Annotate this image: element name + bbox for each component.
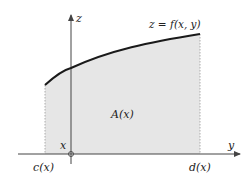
z-axis-label: z [75,12,82,25]
left-bound-label: c(x) [33,161,54,174]
curve-label: z = f(x, y) [148,18,201,30]
cross-section-diagram: z y z = f(x, y) A(x) x c(x) d(x) [0,0,250,183]
shaded-region [45,34,200,154]
right-bound-label: d(x) [189,161,211,174]
y-axis-label: y [227,139,235,152]
region-label: A(x) [110,108,134,121]
diagram-canvas: z y z = f(x, y) A(x) x c(x) d(x) [0,0,250,183]
origin-x-label: x [60,139,67,152]
